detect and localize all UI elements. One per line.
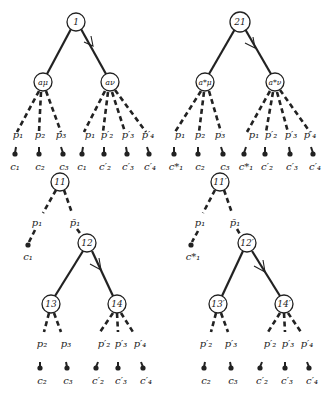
prob-label: p′₂	[264, 338, 277, 349]
dash-edge	[103, 92, 108, 132]
outcome-label: c′₂	[256, 375, 268, 386]
outcome-label: c′₃	[281, 375, 293, 386]
outcome-label: c₃	[228, 375, 238, 386]
edge-12-13	[55, 251, 83, 296]
outcome-label: c₂	[201, 375, 211, 386]
prob-label: p′₄	[304, 129, 317, 140]
node-a-nu: aν	[101, 73, 119, 91]
dash-edge	[224, 190, 232, 213]
prob-label: p₁	[85, 129, 95, 140]
dash-edge	[115, 90, 146, 132]
prob-label: p′₄	[134, 338, 147, 349]
dash-edge	[44, 313, 49, 332]
prob-label: p′₄	[301, 338, 314, 349]
node-11-prime: 11′	[211, 173, 229, 191]
dash-edge	[46, 91, 61, 132]
prob-label: p₃	[215, 129, 225, 140]
outcome-label: c′₂	[261, 161, 273, 172]
prob-label: p′₃	[282, 338, 295, 349]
dash-edge	[192, 231, 198, 242]
dash-edge	[175, 91, 201, 132]
node-a-mu-star: a*μ	[196, 73, 214, 91]
edge-21-amus	[209, 29, 235, 74]
svg-text:11: 11	[54, 177, 65, 187]
edge-1-amu	[47, 29, 71, 74]
dash-edge	[237, 229, 241, 236]
dash-edge	[84, 91, 105, 132]
prob-label: p̄₁	[70, 217, 80, 228]
edge-1-anu	[81, 29, 106, 74]
svg-text:1: 1	[73, 17, 79, 27]
dash-edge	[268, 313, 280, 332]
node-14-prime: 14′	[275, 295, 293, 313]
prob-label: p₁	[249, 129, 259, 140]
leaf-dots	[12, 147, 151, 157]
node-14: 14	[108, 295, 126, 313]
node-1: 1	[67, 13, 85, 31]
svg-text:14′: 14′	[277, 299, 291, 309]
node-a-mu: aμ	[34, 73, 52, 91]
outcome-label: c₁	[23, 251, 33, 262]
outcome-label: c′₃	[286, 161, 298, 172]
dash-edge	[209, 91, 221, 132]
outcome-label: c₂	[195, 161, 205, 172]
outcome-label: c′₄	[140, 375, 152, 386]
prob-label: p₃	[56, 129, 66, 140]
dash-edge	[284, 313, 285, 332]
dash-edge	[288, 313, 301, 332]
prob-label: p′₂	[98, 338, 111, 349]
outcome-label: c*₁	[239, 161, 254, 172]
outcome-label: c₂	[37, 375, 47, 386]
node-13: 13	[42, 295, 60, 313]
dash-edge	[266, 92, 273, 132]
dash-edge	[64, 190, 72, 213]
game-tree-diagram: 1 aμ aν p₁ p₂ p₃ p₁ p′₂ p′₃ p′₄ c₁ c₂ c₃…	[0, 0, 333, 396]
prob-label: p₁	[195, 217, 205, 228]
dash-edge	[54, 313, 61, 332]
prob-label: p₁	[32, 217, 42, 228]
outcome-label: c*₁	[186, 251, 201, 262]
node-12-prime: 12′	[238, 234, 256, 252]
leaf-dots	[201, 362, 311, 371]
outcome-label: c′₂	[92, 375, 104, 386]
tree-2: 21 a*μ a*ν p₁ p₂ p₃ p₁ p′₂ p′₃ p′₄ c*₁ c…	[169, 12, 321, 172]
leaf-dots	[37, 362, 145, 371]
dash-edge	[100, 313, 113, 332]
svg-text:a*μ: a*μ	[198, 78, 211, 87]
prob-label: p₁	[175, 129, 185, 140]
outcome-label: c₁	[77, 161, 87, 172]
prob-label: p′₃	[122, 129, 135, 140]
leaf-dot	[188, 242, 193, 247]
dash-edge	[43, 190, 56, 213]
outcome-label: c*₁	[169, 161, 184, 172]
prob-label: p₁	[13, 129, 23, 140]
dash-edge	[280, 90, 310, 132]
tree-1: 1 aμ aν p₁ p₂ p₃ p₁ p′₂ p′₃ p′₄ c₁ c₂ c₃…	[10, 13, 156, 172]
svg-text:12: 12	[81, 238, 93, 248]
outcome-label: c′₄	[144, 161, 156, 172]
svg-text:11′: 11′	[213, 177, 227, 187]
svg-text:21: 21	[233, 17, 245, 27]
outcome-label: c₁	[10, 161, 20, 172]
prob-label: p′₂	[101, 129, 114, 140]
node-13-prime: 13′	[209, 295, 227, 313]
outcome-label: c′₃	[122, 161, 134, 172]
outcome-label: c′₃	[115, 375, 127, 386]
prob-label: p₃	[61, 338, 71, 349]
dash-edge	[39, 92, 41, 132]
dash-edge	[203, 190, 215, 213]
dash-edge	[17, 91, 39, 132]
edge-12p-13p	[222, 251, 243, 296]
outcome-label: c′₄	[306, 375, 318, 386]
node-12: 12	[78, 234, 96, 252]
edge-12-14	[92, 251, 113, 296]
svg-text:13′: 13′	[211, 299, 225, 309]
prob-label: p′₂	[200, 338, 213, 349]
outcome-label: c₂	[35, 161, 45, 172]
leaf-dots	[171, 147, 315, 157]
node-21: 21	[230, 12, 250, 32]
svg-text:14: 14	[111, 299, 123, 309]
dash-edge	[221, 313, 228, 332]
dash-edge	[199, 92, 204, 132]
prob-label: p̄₁	[230, 217, 240, 228]
